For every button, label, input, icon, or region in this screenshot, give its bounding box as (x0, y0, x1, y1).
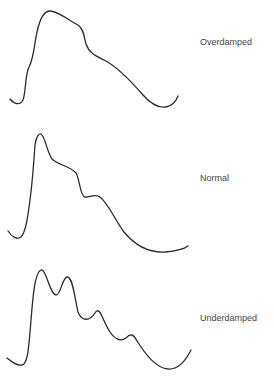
underdamped-label: Underdamped (200, 313, 257, 323)
overdamped-label: Overdamped (200, 37, 252, 47)
overdamped-waveform (10, 11, 178, 107)
normal-label: Normal (200, 173, 229, 183)
waveform-diagram (0, 0, 274, 380)
underdamped-waveform (7, 270, 191, 369)
normal-waveform (8, 134, 188, 252)
